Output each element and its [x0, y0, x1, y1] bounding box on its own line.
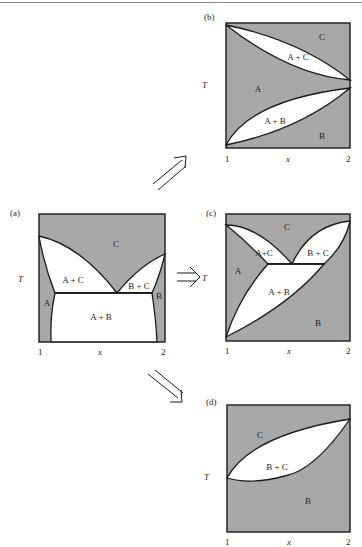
panel-d-region-b-label: B — [305, 496, 311, 506]
panel-c-region-bc-label: B + C — [307, 248, 329, 258]
panel-a-region-c-label: C — [113, 239, 119, 249]
panel-a-region-ac-label: A + C — [62, 275, 84, 285]
panel-d-region-c-label: C — [257, 430, 263, 440]
panel-b-label: (b) — [204, 12, 215, 22]
panel-c: (c) C A+C B + C A A + B B T 1 x 2 — [202, 208, 351, 356]
panel-c-x-tick-1: 1 — [225, 346, 230, 356]
panel-d: (d) C B + C B T 1 x 2 — [204, 397, 351, 547]
panel-d-x-tick-1: 1 — [225, 537, 230, 547]
panel-a-x-tick-2: 2 — [161, 347, 166, 357]
panel-d-y-axis-label: T — [204, 472, 210, 482]
panel-a-region-b-label: B — [156, 291, 162, 301]
panel-c-region-b-label: B — [315, 318, 321, 328]
panel-d-x-tick-2: 2 — [346, 537, 351, 547]
panel-c-region-c-label: C — [284, 222, 290, 232]
panel-b-region-a-label: A — [255, 84, 262, 94]
panel-a-y-axis-label: T — [18, 274, 24, 284]
panel-b-region-ac-label: A + C — [287, 52, 309, 62]
panel-b-region-ab-label: A + B — [264, 116, 286, 126]
phase-diagram-figure: (b) C A + C A A + B B T 1 x 2 (a) C A + … — [0, 0, 362, 547]
panel-a-region-ab-label: A + B — [90, 312, 112, 322]
panel-b-region-b-label: B — [319, 131, 325, 141]
panel-a-label: (a) — [10, 208, 20, 218]
panel-d-label: (d) — [206, 397, 217, 407]
panel-a-x-tick-1: 1 — [38, 347, 43, 357]
panel-a: (a) C A + C B + C A B A + B T 1 x 2 — [10, 208, 166, 357]
panel-d-x-axis-label: x — [286, 537, 291, 547]
panel-d-region-bc-label: B + C — [266, 462, 288, 472]
panel-c-region-a-label: A — [235, 266, 242, 276]
panel-a-x-axis-label: x — [97, 347, 102, 357]
panel-c-region-ac-label: A+C — [255, 248, 273, 258]
panel-a-region-bc-label: B + C — [128, 281, 150, 291]
panel-b-y-axis-label: T — [202, 80, 208, 90]
panel-b: (b) C A + C A A + B B T 1 x 2 — [202, 12, 351, 164]
panel-b-x-tick-2: 2 — [346, 154, 351, 164]
panel-c-region-ab-label: A + B — [268, 287, 290, 297]
panel-c-x-tick-2: 2 — [346, 346, 351, 356]
panel-c-label: (c) — [206, 208, 216, 218]
arrow-right-icon — [177, 267, 200, 287]
panel-b-region-c-label: C — [319, 32, 325, 42]
panel-c-x-axis-label: x — [286, 346, 291, 356]
panel-a-region-a-label: A — [44, 298, 51, 308]
panel-b-x-tick-1: 1 — [225, 154, 230, 164]
panel-c-y-axis-label: T — [202, 273, 208, 283]
arrow-up-right-icon — [153, 156, 186, 190]
panel-b-x-axis-label: x — [285, 154, 290, 164]
arrow-down-right-icon — [148, 370, 183, 402]
